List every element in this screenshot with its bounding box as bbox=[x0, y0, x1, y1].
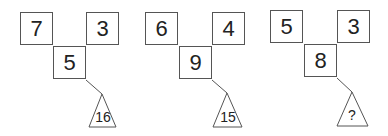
top-right-box: 3 bbox=[86, 12, 119, 45]
middle-number: 8 bbox=[314, 50, 326, 72]
middle-box: 9 bbox=[179, 46, 212, 79]
middle-box: 5 bbox=[53, 46, 86, 79]
triangle-number: 16 bbox=[88, 110, 118, 124]
puzzle-figure-1: 7 3 5 16 bbox=[0, 0, 130, 136]
top-right-box: 4 bbox=[212, 12, 245, 45]
top-right-number: 3 bbox=[347, 16, 359, 38]
middle-number: 5 bbox=[63, 52, 75, 74]
top-right-box: 3 bbox=[337, 10, 370, 43]
top-left-box: 5 bbox=[270, 10, 303, 43]
triangle-unknown: ? bbox=[337, 108, 367, 122]
puzzle-figure-2: 6 4 9 15 bbox=[125, 0, 255, 136]
top-left-number: 7 bbox=[30, 18, 42, 40]
top-left-number: 5 bbox=[280, 16, 292, 38]
top-left-box: 7 bbox=[20, 12, 53, 45]
puzzle-figure-3: 5 3 8 ? bbox=[250, 0, 380, 136]
top-right-number: 4 bbox=[222, 18, 234, 40]
middle-number: 9 bbox=[189, 52, 201, 74]
middle-box: 8 bbox=[304, 44, 337, 77]
triangle-number: 15 bbox=[213, 110, 243, 124]
top-left-number: 6 bbox=[155, 18, 167, 40]
top-left-box: 6 bbox=[145, 12, 178, 45]
top-right-number: 3 bbox=[96, 18, 108, 40]
